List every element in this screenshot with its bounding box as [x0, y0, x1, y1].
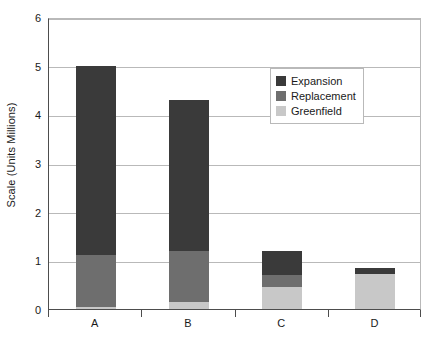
legend-swatch-icon [276, 91, 286, 101]
x-axis-tick-mark [141, 310, 142, 317]
x-axis-tick-label: B [184, 317, 191, 329]
x-axis-tick-label: C [277, 317, 285, 329]
legend-item-label: Expansion [291, 75, 342, 87]
y-axis-tick-label: 1 [35, 255, 41, 267]
bar-segment[interactable] [169, 251, 209, 302]
legend-item-label: Greenfield [291, 105, 342, 117]
plot-area [48, 18, 421, 310]
y-axis-tick-label: 2 [35, 207, 41, 219]
bar-segment[interactable] [76, 307, 116, 309]
y-axis-tick-label: 5 [35, 61, 41, 73]
y-axis-tick-label: 6 [35, 12, 41, 24]
chart-legend: ExpansionReplacementGreenfield [270, 68, 364, 124]
bar-stack [76, 17, 116, 309]
legend-swatch-icon [276, 76, 286, 86]
bar-segment[interactable] [169, 302, 209, 309]
bar-segment[interactable] [355, 274, 395, 309]
bar-stack [169, 17, 209, 309]
x-axis-tick-labels: ABCD [48, 317, 421, 337]
bar-group[interactable] [262, 17, 302, 309]
bar-segment[interactable] [76, 66, 116, 256]
y-axis-tick-label: 4 [35, 109, 41, 121]
bar-segment[interactable] [262, 287, 302, 309]
y-axis-tick-labels: 0123456 [22, 18, 46, 310]
x-axis-tick-label: A [91, 317, 98, 329]
x-axis-tick-mark [420, 310, 421, 317]
legend-item[interactable]: Greenfield [276, 104, 356, 118]
legend-item[interactable]: Replacement [276, 89, 356, 103]
y-axis-tick-label: 0 [35, 304, 41, 316]
bar-segment[interactable] [76, 255, 116, 306]
y-axis-title: Scale (Units Millions) [0, 0, 22, 310]
x-axis-tick-mark [48, 310, 49, 317]
x-axis-tick-label: D [370, 317, 378, 329]
bar-segment[interactable] [262, 251, 302, 275]
bar-group[interactable] [355, 17, 395, 309]
y-axis-tick-label: 3 [35, 158, 41, 170]
bar-stack [355, 17, 395, 309]
bar-group[interactable] [169, 17, 209, 309]
bar-stack [262, 17, 302, 309]
x-axis-tick-mark [235, 310, 236, 317]
x-axis-tick-marks [48, 310, 421, 317]
legend-item-label: Replacement [291, 90, 356, 102]
bar-segment[interactable] [355, 268, 395, 274]
legend-swatch-icon [276, 106, 286, 116]
bar-group[interactable] [76, 17, 116, 309]
bar-segment[interactable] [169, 100, 209, 251]
bar-segment[interactable] [262, 275, 302, 287]
stacked-bar-chart: Scale (Units Millions) 0123456 ABCD Expa… [0, 0, 438, 356]
y-axis-title-label: Scale (Units Millions) [5, 103, 17, 208]
bars-layer [49, 19, 420, 309]
x-axis-tick-mark [328, 310, 329, 317]
legend-item[interactable]: Expansion [276, 74, 356, 88]
